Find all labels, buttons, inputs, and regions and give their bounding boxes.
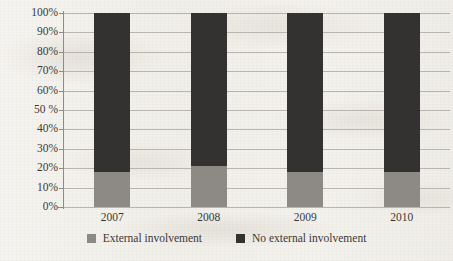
bar-segment-no-external-involvement[interactable] [94,13,130,172]
y-axis-tick-mark [59,52,64,53]
plot-area [64,13,450,207]
gridline [64,207,450,208]
y-axis-tick-mark [59,32,64,33]
bar-2008[interactable] [191,13,227,207]
y-axis-tick-label: 70% [37,65,58,76]
y-axis-tick-label: 80% [37,46,58,57]
y-axis-tick-label: 20% [37,162,58,173]
y-axis-tick-label: 40% [37,123,58,134]
legend-item-external-involvement[interactable]: External involvement [87,232,202,244]
y-axis-tick-mark [59,110,64,111]
x-axis-tick-label: 2008 [164,211,254,223]
y-axis-tick-mark [59,71,64,72]
x-axis-tick-label: 2009 [260,211,350,223]
y-axis-tick-mark [59,168,64,169]
y-axis-tick-label: 90% [37,26,58,37]
legend-swatch-gray-icon [87,234,96,243]
chart-legend: External involvement No external involve… [0,232,453,244]
bar-segment-no-external-involvement[interactable] [384,13,420,172]
y-axis-tick-label: 10% [37,182,58,193]
legend-label: External involvement [103,232,202,244]
y-axis-tick-label: 0% [43,201,58,212]
x-axis-tick-label: 2007 [67,211,157,223]
legend-swatch-dark-icon [236,234,245,243]
bar-2010[interactable] [384,13,420,207]
y-axis-tick-label: 100% [31,7,58,18]
bar-2009[interactable] [287,13,323,207]
bar-segment-external-involvement[interactable] [191,166,227,207]
x-axis-tick-label: 2010 [357,211,447,223]
y-axis-tick-mark [59,13,64,14]
legend-item-no-external-involvement[interactable]: No external involvement [236,232,366,244]
legend-label: No external involvement [252,232,366,244]
bar-segment-no-external-involvement[interactable] [191,13,227,166]
bar-segment-external-involvement[interactable] [384,172,420,207]
y-axis-tick-mark [59,207,64,208]
y-axis-tick-label: 60% [37,85,58,96]
y-axis-tick-label: 30% [37,143,58,154]
bar-2007[interactable] [94,13,130,207]
chart-page: 100%90%80%70%60%50 %40%30%20%10%0% 20072… [0,0,453,261]
y-axis-tick-mark [59,129,64,130]
y-axis-tick-mark [59,188,64,189]
bar-segment-no-external-involvement[interactable] [287,13,323,172]
y-axis-tick-mark [59,149,64,150]
bar-segment-external-involvement[interactable] [287,172,323,207]
y-axis-tick-label: 50 % [34,104,58,115]
y-axis-tick-mark [59,91,64,92]
y-axis-labels: 100%90%80%70%60%50 %40%30%20%10%0% [0,0,58,261]
bar-segment-external-involvement[interactable] [94,172,130,207]
